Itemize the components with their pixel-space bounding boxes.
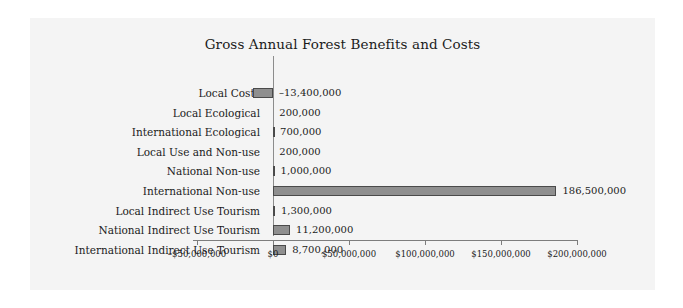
value-label: 200,000 bbox=[279, 103, 320, 123]
bar-row: Local Use and Non-use200,000 bbox=[30, 142, 655, 162]
bar bbox=[273, 166, 275, 176]
x-axis-tick bbox=[501, 240, 502, 245]
bar bbox=[273, 127, 275, 137]
value-label: 1,000,000 bbox=[281, 161, 332, 181]
x-axis-tick-label: $0 bbox=[268, 247, 279, 261]
value-label: –13,400,000 bbox=[279, 83, 341, 103]
bar-row: Local Indirect Use Tourism1,300,000 bbox=[30, 201, 655, 221]
x-axis-tick bbox=[273, 240, 274, 245]
x-axis-tick bbox=[349, 240, 350, 245]
plot-area: Local Costs–13,400,000Local Ecological20… bbox=[30, 18, 655, 290]
bar-row: Local Ecological200,000 bbox=[30, 103, 655, 123]
category-label: National Non-use bbox=[30, 161, 260, 181]
chart-figure: Gross Annual Forest Benefits and Costs L… bbox=[30, 18, 655, 290]
bar-row: International Non-use186,500,000 bbox=[30, 181, 655, 201]
category-label: International Ecological bbox=[30, 122, 260, 142]
bar bbox=[273, 186, 556, 196]
category-label: Local Use and Non-use bbox=[30, 142, 260, 162]
category-label: International Non-use bbox=[30, 181, 260, 201]
x-axis-tick-label: $200,000,000 bbox=[547, 247, 606, 261]
x-axis-tick-label: $50,000,000 bbox=[322, 247, 376, 261]
bar bbox=[273, 206, 275, 216]
x-axis-tick bbox=[197, 240, 198, 245]
x-axis-tick bbox=[425, 240, 426, 245]
category-label: Local Indirect Use Tourism bbox=[30, 201, 260, 221]
category-label: Local Ecological bbox=[30, 103, 260, 123]
category-label: Local Costs bbox=[30, 83, 260, 103]
value-label: 11,200,000 bbox=[296, 220, 353, 240]
bar-row: National Indirect Use Tourism11,200,000 bbox=[30, 220, 655, 240]
x-axis-tick-label: $100,000,000 bbox=[395, 247, 454, 261]
value-label: 200,000 bbox=[279, 142, 320, 162]
bar bbox=[273, 225, 290, 235]
x-axis-tick bbox=[577, 240, 578, 245]
bar bbox=[253, 88, 273, 98]
category-label: National Indirect Use Tourism bbox=[30, 220, 260, 240]
value-label: 700,000 bbox=[280, 122, 321, 142]
x-axis-tick-label: $150,000,000 bbox=[471, 247, 530, 261]
bar-row: Local Costs–13,400,000 bbox=[30, 83, 655, 103]
bar-row: National Non-use1,000,000 bbox=[30, 161, 655, 181]
bar-row: International Ecological700,000 bbox=[30, 122, 655, 142]
value-label: 186,500,000 bbox=[562, 181, 626, 201]
x-axis-tick-label: –$50,000,000 bbox=[168, 247, 226, 261]
value-label: 1,300,000 bbox=[281, 201, 332, 221]
